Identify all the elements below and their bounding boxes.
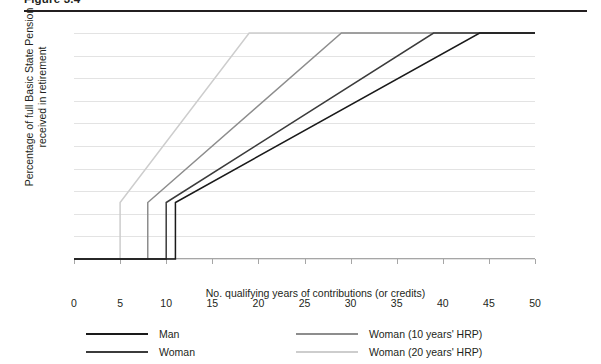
legend-line-swatch [86, 351, 148, 353]
series-line [74, 33, 535, 259]
x-tick [212, 259, 213, 264]
legend-item[interactable]: Woman (20 years' HRP) [296, 344, 482, 360]
x-tick [258, 259, 259, 264]
x-tick [305, 259, 306, 264]
plot-area: 0%10%20%30%40%50%60%70%80%90%100% 051015… [74, 33, 535, 259]
legend-item[interactable]: Woman (10 years' HRP) [296, 326, 482, 342]
line-chart: Percentage of full Basic State Pension r… [0, 0, 601, 310]
legend-label: Woman [159, 346, 195, 358]
series-line [74, 33, 535, 259]
x-axis-title: No. qualifying years of contributions (o… [0, 287, 601, 299]
legend-line-swatch [296, 333, 358, 335]
legend-label: Woman (20 years' HRP) [369, 346, 482, 358]
x-tick [443, 259, 444, 264]
series-lines [74, 33, 535, 259]
legend-item[interactable]: Man [86, 326, 179, 342]
x-tick [535, 259, 536, 264]
chart-legend: ManWomanWoman (10 years' HRP)Woman (20 y… [0, 322, 601, 364]
legend-item[interactable]: Woman [86, 344, 195, 360]
legend-label: Woman (10 years' HRP) [369, 328, 482, 340]
x-tick [489, 259, 490, 264]
series-line [74, 33, 535, 259]
legend-label: Man [159, 328, 179, 340]
series-line [74, 33, 535, 259]
legend-line-swatch [86, 333, 148, 335]
legend-line-swatch [296, 351, 358, 353]
y-axis-title: Percentage of full Basic State Pension r… [23, 0, 49, 197]
x-tick [351, 259, 352, 264]
x-axis-title-text: No. qualifying years of contributions (o… [206, 287, 425, 299]
x-tick [397, 259, 398, 264]
